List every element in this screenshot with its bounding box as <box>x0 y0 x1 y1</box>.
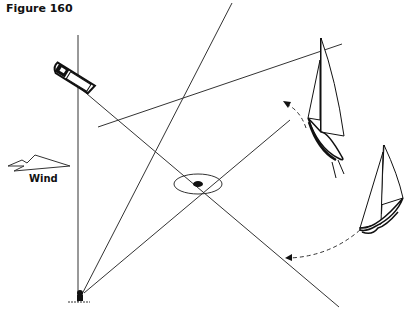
diagonal-line-to-upper-right <box>98 44 342 127</box>
sailboat-upper-icon <box>308 38 344 178</box>
arrowhead-lower <box>285 254 292 261</box>
sailboat-lower-icon <box>360 145 403 233</box>
motorboat-icon <box>52 62 95 94</box>
center-dot <box>193 181 203 187</box>
diagonal-line-boat-to-lower-right <box>80 88 339 307</box>
diagonal-line-lower-left-to-upper-right <box>84 120 290 293</box>
diagram-canvas <box>0 0 413 335</box>
wind-label: Wind <box>29 173 58 184</box>
wind-arrow-icon <box>8 155 70 171</box>
course-lines <box>78 3 342 307</box>
track-upper <box>286 104 306 128</box>
center-mark <box>174 174 222 194</box>
track-lower <box>290 230 360 258</box>
diagonal-line-top-to-buoy <box>80 3 232 298</box>
arrowhead-upper <box>283 101 291 108</box>
buoy-icon <box>68 290 90 302</box>
